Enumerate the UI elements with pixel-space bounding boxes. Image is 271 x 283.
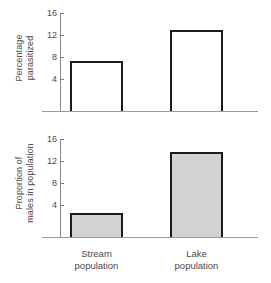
- y-tick-mark-bottom-8: [60, 183, 64, 184]
- panel-percentage-parasitized: Percentage parasitized 16 12 8 4: [0, 0, 271, 118]
- y-axis-label-bottom-line1: Proportion of: [14, 157, 24, 210]
- figure-bar-chart-parasitism: Percentage parasitized 16 12 8 4 Proport…: [0, 0, 271, 283]
- y-axis-label-top-line2: parasitized: [25, 8, 36, 108]
- y-tick-mark-top-16: [60, 13, 64, 14]
- bar-bottom-stream-population: [70, 213, 123, 237]
- y-tick-label-bottom-16: 16: [41, 135, 57, 144]
- y-tick-label-top-16: 16: [41, 9, 57, 18]
- x-category-label-stream-line2: population: [56, 260, 137, 272]
- y-tick-label-top-12: 12: [41, 31, 57, 40]
- bar-top-stream-population: [70, 61, 123, 111]
- y-axis-label-top: Percentage parasitized: [14, 8, 35, 108]
- y-tick-label-top-8: 8: [41, 53, 57, 62]
- x-axis-line-bottom: [42, 237, 258, 238]
- y-tick-mark-top-12: [60, 35, 64, 36]
- y-axis-label-top-line1: Percentage: [14, 34, 24, 81]
- y-tick-mark-bottom-4: [60, 205, 64, 206]
- y-tick-mark-bottom-12: [60, 161, 64, 162]
- y-tick-label-bottom-12: 12: [41, 157, 57, 166]
- x-category-label-stream-line1: Stream: [81, 248, 112, 259]
- y-axis-line-top: [60, 13, 61, 111]
- y-axis-line-bottom: [60, 139, 61, 237]
- bar-top-lake-population: [170, 30, 223, 111]
- y-tick-label-top-4: 4: [41, 75, 57, 84]
- x-category-label-stream: Stream population: [56, 248, 137, 271]
- y-tick-label-bottom-4: 4: [41, 201, 57, 210]
- x-category-label-lake: Lake population: [156, 248, 237, 271]
- panel-proportion-males: Proportion of males in population 16 12 …: [0, 126, 271, 244]
- y-tick-mark-top-8: [60, 57, 64, 58]
- x-category-label-lake-line2: population: [156, 260, 237, 272]
- y-tick-mark-top-4: [60, 79, 64, 80]
- y-tick-mark-bottom-16: [60, 139, 64, 140]
- y-tick-label-bottom-8: 8: [41, 179, 57, 188]
- x-axis-line-top: [42, 111, 258, 112]
- x-category-label-lake-line1: Lake: [186, 248, 207, 259]
- bar-bottom-lake-population: [170, 152, 223, 237]
- y-axis-label-bottom: Proportion of males in population: [14, 128, 35, 238]
- y-axis-label-bottom-line2: males in population: [25, 128, 36, 238]
